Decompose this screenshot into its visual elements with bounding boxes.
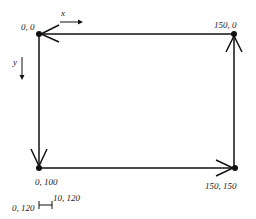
- point-150-0: [231, 31, 237, 37]
- y-axis-label: y: [12, 57, 17, 67]
- point-label-150-150: 150, 150: [205, 181, 237, 191]
- x-axis-indicator: x: [60, 8, 83, 25]
- point-0-100: [36, 165, 42, 171]
- path-diagram: x y 0, 0 150, 0 150, 150 0, 100: [0, 0, 256, 219]
- scale-marker: 0, 120 10, 120: [12, 193, 81, 213]
- point-label-150-0: 150, 0: [214, 20, 237, 30]
- point-0-0: [36, 31, 42, 37]
- x-axis-arrowhead-icon: [78, 20, 83, 25]
- scale-marker-start-label: 0, 120: [12, 203, 35, 213]
- y-axis-indicator: y: [12, 57, 25, 80]
- scale-marker-end-label: 10, 120: [53, 193, 81, 203]
- x-axis-label: x: [60, 8, 65, 18]
- point-label-0-100: 0, 100: [35, 177, 58, 187]
- point-150-150: [232, 165, 238, 171]
- y-axis-arrowhead-icon: [20, 75, 25, 80]
- point-label-0-0: 0, 0: [21, 22, 35, 32]
